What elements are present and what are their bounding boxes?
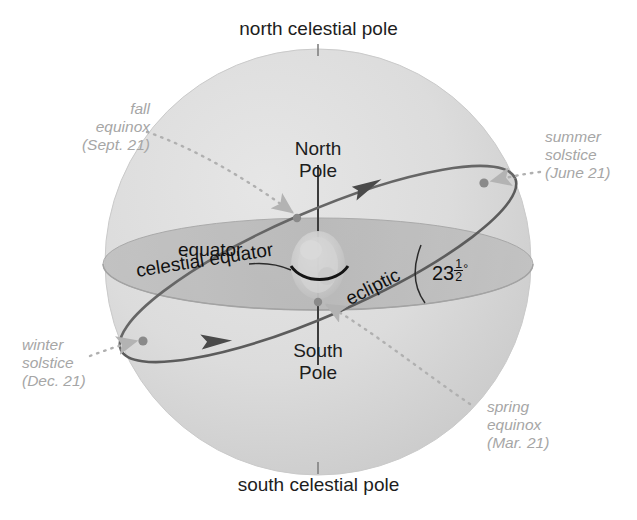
node-marker-spring-equinox xyxy=(314,298,322,306)
spring-equinox-line3: (Mar. 21) xyxy=(487,434,607,452)
south-celestial-pole-label: south celestial pole xyxy=(0,474,637,496)
summer-solstice-line1: summer xyxy=(545,128,637,146)
winter-solstice-line2: solstice xyxy=(22,354,132,372)
north-pole-label: North Pole xyxy=(258,138,378,182)
axial-tilt-denominator: 2 xyxy=(454,271,463,283)
north-pole-label-line1: North xyxy=(258,138,378,160)
winter-solstice-line3: (Dec. 21) xyxy=(22,372,132,390)
south-pole-label-line2: Pole xyxy=(258,362,378,384)
spring-equinox-line2: equinox xyxy=(487,416,607,434)
fall-equinox-label: fall equinox (Sept. 21) xyxy=(20,100,150,154)
north-pole-label-line2: Pole xyxy=(258,160,378,182)
axial-tilt-fraction: 12 xyxy=(454,258,463,284)
celestial-sphere-diagram: north celestial pole south celestial pol… xyxy=(0,0,637,520)
fall-equinox-line3: (Sept. 21) xyxy=(20,136,150,154)
summer-solstice-label: summer solstice (June 21) xyxy=(545,128,637,182)
summer-solstice-line3: (June 21) xyxy=(545,164,637,182)
spring-equinox-line1: spring xyxy=(487,398,607,416)
spring-equinox-label: spring equinox (Mar. 21) xyxy=(487,398,607,452)
fall-equinox-line2: equinox xyxy=(20,118,150,136)
summer-solstice-line2: solstice xyxy=(545,146,637,164)
axial-tilt-label: 2312° xyxy=(432,258,468,285)
fall-equinox-line1: fall xyxy=(20,100,150,118)
north-celestial-pole-label: north celestial pole xyxy=(0,18,637,40)
degree-symbol: ° xyxy=(463,262,468,276)
winter-solstice-label: winter solstice (Dec. 21) xyxy=(22,336,132,390)
winter-solstice-line1: winter xyxy=(22,336,132,354)
node-marker-winter-solstice xyxy=(138,336,147,345)
south-pole-label-line1: South xyxy=(258,340,378,362)
earth-globe xyxy=(291,231,345,299)
axial-tilt-whole: 23 xyxy=(432,262,454,284)
south-pole-label: South Pole xyxy=(258,340,378,384)
node-marker-fall-equinox xyxy=(293,214,301,222)
node-marker-summer-solstice xyxy=(479,178,488,187)
axial-tilt-numerator: 1 xyxy=(454,258,463,271)
